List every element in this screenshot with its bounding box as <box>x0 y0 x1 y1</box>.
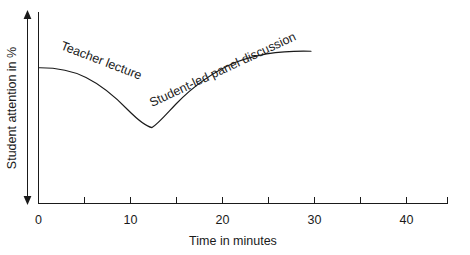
annotation-student-led-panel-discussion: Student-led panel discussion <box>147 29 298 109</box>
y-axis-title: Student attention in % <box>5 47 19 169</box>
x-tick-label-0: 0 <box>35 213 42 227</box>
y-arrow-head-up <box>24 10 32 19</box>
x-tick-label-10: 10 <box>124 213 138 227</box>
y-arrow-head-down <box>24 196 32 205</box>
x-axis-title: Time in minutes <box>189 234 277 248</box>
y-axis-range-arrow <box>24 10 32 205</box>
chart-canvas: 0 10 20 30 40 Time in minutes Student at… <box>0 0 470 255</box>
x-tick-label-20: 20 <box>216 213 230 227</box>
x-tick-label-30: 30 <box>308 213 322 227</box>
annotation-teacher-lecture: Teacher lecture <box>59 39 144 83</box>
x-tick-label-40: 40 <box>400 213 414 227</box>
attention-chart-figure: 0 10 20 30 40 Time in minutes Student at… <box>0 0 470 255</box>
x-axis-ticks <box>39 197 448 204</box>
